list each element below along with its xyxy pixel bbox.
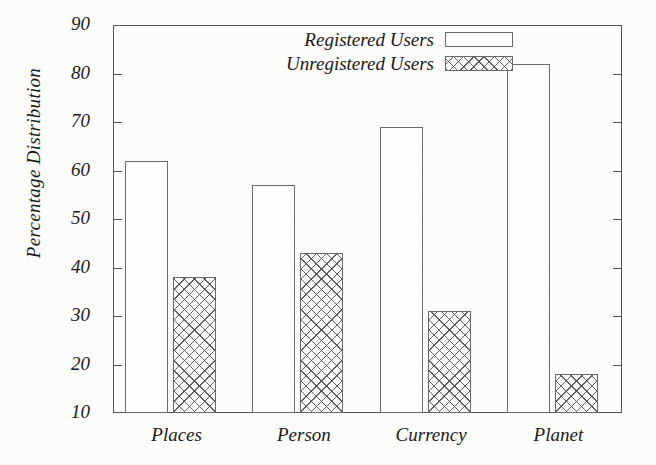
x-axis-label-currency: Currency (368, 424, 495, 446)
chart-legend: Registered Users Unregistered Users (228, 28, 513, 76)
y-tick-label-90: 90 (30, 13, 90, 35)
y-tick-label-20: 20 (30, 353, 90, 375)
y-tick-label-40: 40 (30, 256, 90, 278)
y-tick-label-50: 50 (30, 207, 90, 229)
y-tick-label-60: 60 (30, 159, 90, 181)
bar-currency-registered (380, 127, 423, 413)
y-tick-label-70: 70 (30, 110, 90, 132)
bar-places-registered (125, 161, 168, 413)
legend-item-registered: Registered Users (228, 28, 513, 51)
chart-page: Percentage Distribution 1020304050607080… (0, 0, 656, 465)
x-axis-label-person: Person (240, 424, 367, 446)
x-axis-label-planet: Planet (495, 424, 622, 446)
legend-swatch-registered (445, 32, 513, 47)
y-tick-label-10: 10 (30, 401, 90, 423)
y-tick-label-30: 30 (30, 304, 90, 326)
bar-person-registered (252, 185, 295, 413)
legend-label-unregistered: Unregistered Users (286, 53, 434, 75)
bar-planet-unregistered (555, 374, 598, 413)
bar-planet-registered (507, 64, 550, 413)
x-axis-label-places: Places (113, 424, 240, 446)
y-tick-label-80: 80 (30, 62, 90, 84)
bar-currency-unregistered (428, 311, 471, 413)
legend-swatch-unregistered (445, 56, 513, 71)
legend-label-registered: Registered Users (304, 29, 434, 51)
bar-person-unregistered (300, 253, 343, 413)
bar-places-unregistered (173, 277, 216, 413)
legend-item-unregistered: Unregistered Users (228, 52, 513, 75)
